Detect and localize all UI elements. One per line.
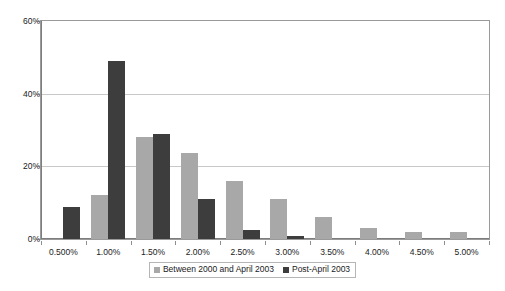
y-tick-label: 40%: [4, 90, 40, 99]
bar-group: [399, 21, 444, 239]
x-tick-mark: [131, 241, 132, 245]
bar: [181, 153, 198, 239]
bar: [315, 217, 332, 239]
bar-group: [41, 21, 86, 239]
x-tick-mark: [489, 241, 490, 245]
bar: [198, 199, 215, 239]
x-tick-mark: [220, 241, 221, 245]
bar: [405, 232, 422, 239]
bar: [136, 137, 153, 239]
bar: [91, 195, 108, 239]
legend-entry: Post-April 2003: [283, 264, 350, 275]
bar-group: [175, 21, 220, 239]
legend-entry: Between 2000 and April 2003: [154, 264, 274, 275]
bar: [287, 236, 304, 239]
bar: [270, 199, 287, 239]
bar-group: [86, 21, 131, 239]
bar-group: [220, 21, 265, 239]
bar-group: [355, 21, 400, 239]
legend-swatch-icon: [154, 267, 160, 273]
bar-group: [131, 21, 176, 239]
bar: [360, 228, 377, 239]
bar: [108, 61, 125, 239]
x-tick-mark: [175, 241, 176, 245]
x-axis: 0.500%1.00%1.50%2.00%2.50%3.00%3.50%4.00…: [41, 241, 489, 263]
y-tick-label: 0%: [4, 235, 40, 244]
x-tick-mark: [265, 241, 266, 245]
x-tick-label: 5.00%: [437, 247, 497, 258]
legend-box: Between 2000 and April 2003Post-April 20…: [149, 262, 356, 278]
bar-group: [310, 21, 355, 239]
legend-label: Post-April 2003: [292, 264, 350, 275]
bar: [243, 230, 260, 239]
bar: [153, 134, 170, 239]
bar-group: [444, 21, 489, 239]
legend-label: Between 2000 and April 2003: [163, 264, 274, 275]
bar: [63, 207, 80, 239]
bar: [226, 181, 243, 239]
x-tick-mark: [444, 241, 445, 245]
y-axis: 0%20%40%60%: [0, 20, 40, 240]
y-tick-label: 20%: [4, 162, 40, 171]
chart-legend: Between 2000 and April 2003Post-April 20…: [0, 262, 505, 278]
x-tick-mark: [310, 241, 311, 245]
bars-layer: [41, 21, 489, 239]
x-tick-mark: [41, 241, 42, 245]
x-tick-mark: [355, 241, 356, 245]
x-tick-mark: [86, 241, 87, 245]
bar-chart: 0%20%40%60% 0.500%1.00%1.50%2.00%2.50%3.…: [0, 0, 505, 291]
bar-group: [265, 21, 310, 239]
legend-swatch-icon: [283, 267, 289, 273]
bar: [450, 232, 467, 239]
x-tick-mark: [399, 241, 400, 245]
y-tick-label: 60%: [4, 17, 40, 26]
